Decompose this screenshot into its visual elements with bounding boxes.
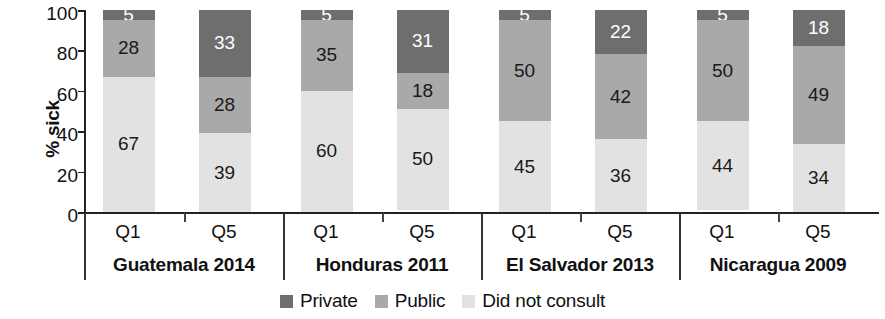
x-tick-label-q1: Q1 xyxy=(484,221,564,243)
segment-value-public: 50 xyxy=(712,61,733,80)
x-tick-label-q5: Q5 xyxy=(580,221,660,243)
bar-group-el-salvador-2013: 5 50 45 22 42 36 xyxy=(482,10,680,212)
segment-value-none: 67 xyxy=(118,134,139,153)
stacked-bar[interactable]: 31 18 50 xyxy=(397,10,449,212)
segment-value-public: 49 xyxy=(808,85,829,104)
stacked-bar[interactable]: 5 28 67 xyxy=(103,10,155,212)
group-label-honduras-2011: Honduras 2011 xyxy=(282,254,482,276)
x-tick-label-q5: Q5 xyxy=(382,221,462,243)
stacked-bar[interactable]: 5 35 60 xyxy=(301,10,353,212)
stacked-bar[interactable]: 5 50 45 xyxy=(499,10,551,212)
segment-value-private: 31 xyxy=(412,31,433,50)
stacked-bar-chart: % sick 100 80 60 40 20 0 5 28 67 33 28 3… xyxy=(0,0,885,319)
bar-group-guatemala-2014: 5 28 67 33 28 39 xyxy=(86,10,284,212)
x-tick-label-q5: Q5 xyxy=(184,221,264,243)
group-label-nicaragua-2009: Nicaragua 2009 xyxy=(678,254,878,276)
segment-value-public: 50 xyxy=(514,61,535,80)
plot-area: 5 28 67 33 28 39 5 35 60 31 18 50 xyxy=(86,10,880,212)
segment-value-private: 33 xyxy=(214,33,235,52)
stacked-bar[interactable]: 33 28 39 xyxy=(199,10,251,212)
y-tick-label: 60 xyxy=(32,85,78,104)
y-tick-label: 20 xyxy=(32,166,78,185)
group-label-el-salvador-2013: El Salvador 2013 xyxy=(480,254,680,276)
legend-label-private: Private xyxy=(300,290,358,312)
segment-value-none: 36 xyxy=(610,166,631,185)
legend-item-private[interactable]: Private xyxy=(280,290,358,312)
segment-value-public: 42 xyxy=(610,87,631,106)
segment-value-none: 45 xyxy=(514,157,535,176)
segment-value-none: 34 xyxy=(808,168,829,187)
y-tick-label: 100 xyxy=(32,4,78,23)
segment-value-public: 28 xyxy=(118,38,139,57)
legend-swatch-public-icon xyxy=(375,295,388,308)
segment-value-public: 18 xyxy=(412,81,433,100)
x-tick-label-q1: Q1 xyxy=(682,221,762,243)
segment-value-public: 28 xyxy=(214,95,235,114)
bar-group-nicaragua-2009: 5 50 44 18 49 34 xyxy=(680,10,878,212)
group-label-guatemala-2014: Guatemala 2014 xyxy=(84,254,284,276)
y-tick-label: 0 xyxy=(32,206,78,225)
x-tick-label-q5: Q5 xyxy=(778,221,858,243)
segment-value-private: 22 xyxy=(610,22,631,41)
y-tick-label: 80 xyxy=(32,44,78,63)
stacked-bar[interactable]: 18 49 34 xyxy=(793,10,845,212)
y-axis-tick-labels: 100 80 60 40 20 0 xyxy=(28,0,78,240)
y-tick-label: 40 xyxy=(32,125,78,144)
segment-value-none: 60 xyxy=(316,141,337,160)
legend-item-public[interactable]: Public xyxy=(375,290,446,312)
stacked-bar[interactable]: 5 50 44 xyxy=(697,10,749,212)
x-tick-label-q1: Q1 xyxy=(286,221,366,243)
segment-value-none: 44 xyxy=(712,156,733,175)
legend-item-did-not-consult[interactable]: Did not consult xyxy=(462,290,605,312)
legend-swatch-private-icon xyxy=(280,295,293,308)
segment-value-public: 35 xyxy=(316,45,337,64)
legend: Private Public Did not consult xyxy=(0,290,885,312)
segment-value-none: 39 xyxy=(214,163,235,182)
x-tick-label-q1: Q1 xyxy=(88,221,168,243)
stacked-bar[interactable]: 22 42 36 xyxy=(595,10,647,212)
legend-label-public: Public xyxy=(395,290,446,312)
legend-swatch-did-not-consult-icon xyxy=(462,295,475,308)
segment-value-none: 50 xyxy=(412,149,433,168)
bar-group-honduras-2011: 5 35 60 31 18 50 xyxy=(284,10,482,212)
legend-label-did-not-consult: Did not consult xyxy=(482,290,605,312)
segment-value-private: 18 xyxy=(808,18,829,37)
